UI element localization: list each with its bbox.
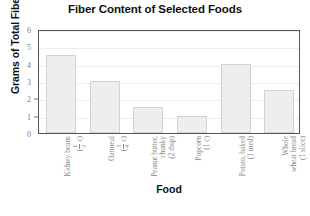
x-axis-title: Food [38,183,300,195]
y-tick-label: 4 [27,60,31,69]
bar [221,64,251,133]
bar [46,55,76,133]
y-tick-label: 5 [27,43,31,52]
y-tick-label: 0 [27,130,31,139]
bar [264,90,294,133]
x-axis-category-labels: Kidney beans(12 c)Oatmeal(34 c)Peanut bu… [38,136,300,214]
x-tick-label: Wholewheat bread(1 slice) [282,136,307,214]
fiber-content-bar-chart: Fiber Content of Selected Foods Grams of… [0,0,310,216]
y-tick-label: 3 [27,78,31,87]
bar [90,81,120,133]
y-axis-ticks: 6543210 [0,30,38,134]
bar-series [39,31,299,133]
x-tick-label: Peanut butter,chunky(2 tbsp) [151,136,176,214]
bar [133,107,163,133]
plot-area [38,30,300,134]
x-tick-label: Potato, baked(1 med) [239,136,256,214]
y-tick-label: 1 [27,112,31,121]
y-tick-label: 2 [27,95,31,104]
x-tick-label: Kidney beans(12 c) [64,136,86,214]
x-tick-label: Popcorn(1 c) [195,136,212,214]
x-tick-label: Oatmeal(34 c) [108,136,130,214]
y-tick-label: 6 [27,26,31,35]
bar [177,116,207,133]
chart-title: Fiber Content of Selected Foods [0,3,310,15]
